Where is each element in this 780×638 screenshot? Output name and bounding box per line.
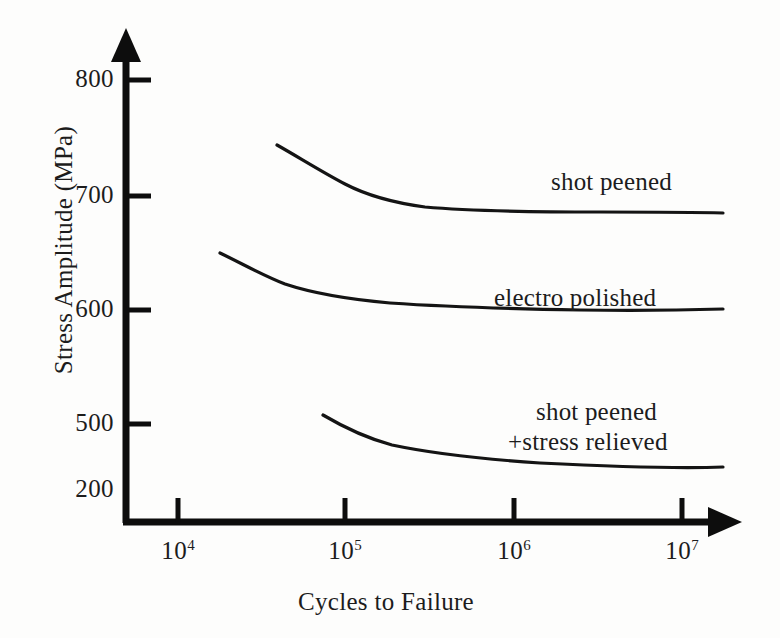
x-tick-exponent-1e7: 7 [691, 537, 699, 553]
annotation-shot-peened: shot peened [551, 167, 672, 197]
x-tick-mantissa-1e5: 10 [328, 537, 354, 564]
fatigue-curve-figure: 800 700 600 500 200 104 105 106 107 Stre… [0, 0, 780, 638]
y-axis-arrowhead-icon [111, 28, 141, 62]
x-tick-label-1e7: 107 [642, 538, 722, 563]
x-tick-exponent-1e5: 5 [354, 537, 362, 553]
x-axis-arrowhead-icon [708, 507, 742, 537]
x-tick-exponent-1e4: 4 [187, 537, 195, 553]
x-axis-title: Cycles to Failure [286, 588, 486, 616]
x-tick-label-1e6: 106 [474, 538, 554, 563]
annotation-shot-peened-stress-relieved-line1: shot peened [536, 398, 657, 425]
y-tick-label-200: 200 [42, 476, 114, 501]
x-tick-mantissa-1e7: 10 [665, 537, 691, 564]
y-tick-label-500: 500 [42, 410, 114, 435]
x-tick-label-1e5: 105 [305, 538, 385, 563]
y-axis-title: Stress Amplitude (MPa) [50, 100, 78, 400]
x-tick-label-1e4: 104 [138, 538, 218, 563]
x-tick-exponent-1e6: 6 [523, 537, 531, 553]
annotation-electro-polished: electro polished [494, 283, 656, 313]
annotation-shot-peened-stress-relieved-line2: +stress relieved [508, 427, 668, 457]
y-tick-label-800: 800 [42, 66, 114, 91]
x-tick-mantissa-1e4: 10 [161, 537, 187, 564]
x-tick-mantissa-1e6: 10 [497, 537, 523, 564]
annotation-shot-peened-stress-relieved: shot peened+stress relieved [536, 397, 668, 456]
